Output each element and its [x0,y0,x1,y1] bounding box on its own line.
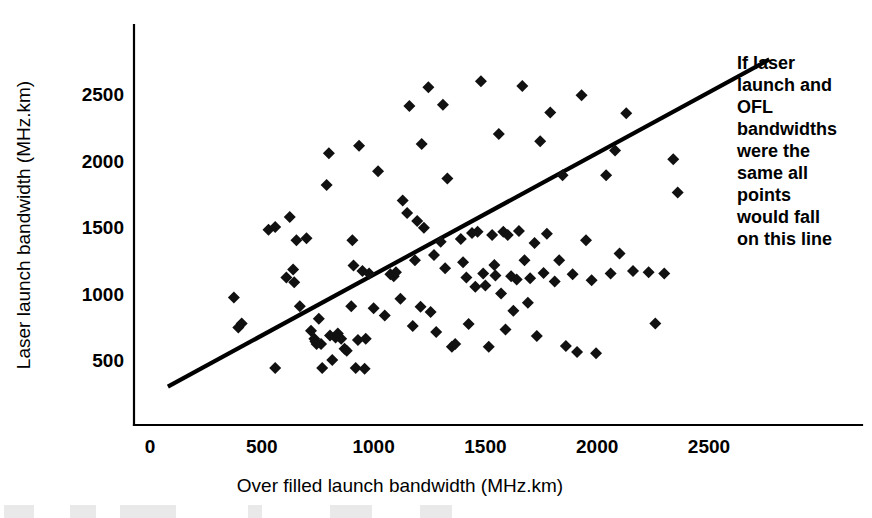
data-point [360,333,372,345]
data-point [326,354,338,366]
data-point [479,280,491,292]
data-point [538,267,550,279]
data-point [475,75,487,87]
identity-reference-line [168,59,769,386]
data-point [614,248,626,260]
x-tick-label: 1000 [352,436,394,457]
data-point [353,140,365,152]
data-point [627,265,639,277]
data-point [590,347,602,359]
x-tick-label: 1500 [464,436,506,457]
data-point [425,306,437,318]
data-point [379,309,391,321]
data-point [649,317,661,329]
y-tick-label: 2000 [82,151,124,172]
data-point [483,341,495,353]
data-point [489,270,501,282]
x-tick-label: 500 [246,436,278,457]
y-tick-label: 1000 [82,284,124,305]
data-point [368,302,380,314]
data-point [290,234,302,246]
data-point [531,330,543,342]
data-point [455,233,467,245]
scatter-plot-figure: 050010001500200025005001000150020002500O… [0,0,872,518]
data-point [567,268,579,280]
data-point [519,254,531,266]
data-point [345,300,357,312]
data-point [269,362,281,374]
data-point [571,346,583,358]
data-point [620,107,632,119]
data-point [541,228,553,240]
data-point [544,107,556,119]
data-point [672,186,684,198]
data-point [287,264,299,276]
data-point [600,169,612,181]
data-point [495,288,507,300]
data-point [522,297,534,309]
data-point [560,340,572,352]
data-point [667,153,679,165]
x-tick-label: 0 [145,436,156,457]
data-point [605,268,617,280]
data-point [580,234,592,246]
data-point [437,99,449,111]
data-point [228,291,240,303]
x-axis-title: Over filled launch bandwidth (MHz.km) [237,475,563,496]
data-point [359,363,371,375]
data-point [457,256,469,268]
data-point [430,326,442,338]
data-point [397,194,409,206]
data-point [553,254,565,266]
data-point [321,179,333,191]
data-point [477,268,489,280]
x-tick-label: 2000 [576,436,618,457]
data-point [416,138,428,150]
data-point [469,281,481,293]
data-point [316,362,328,374]
data-point [313,313,325,325]
data-point [301,232,313,244]
data-point [441,172,453,184]
data-point [407,320,419,332]
data-point [415,301,427,313]
data-point [372,165,384,177]
data-point [428,249,440,261]
data-point [513,225,525,237]
data-point [439,262,451,274]
reference-line-annotation: If laser launch and OFL bandwidths were … [737,52,857,250]
data-point [658,268,670,280]
y-axis-title: Laser launch bandwidth (MHz.km) [13,81,34,369]
data-point [284,211,296,223]
chart-group: 050010001500200025005001000150020002500O… [13,25,862,496]
data-point [463,318,475,330]
data-point [516,80,528,92]
data-point [422,81,434,93]
data-point [534,135,546,147]
data-point [346,234,358,246]
data-point [401,207,413,219]
data-point [576,89,588,101]
data-point [488,259,500,271]
data-point [460,272,472,284]
data-point [507,305,519,317]
data-point [524,272,536,284]
data-point [394,293,406,305]
data-point [493,128,505,140]
page-bottom-artifact [0,505,872,518]
data-point [643,266,655,278]
y-tick-label: 2500 [82,84,124,105]
data-point [529,237,541,249]
data-point [486,229,498,241]
data-point [586,274,598,286]
y-tick-label: 500 [92,350,124,371]
y-tick-label: 1500 [82,217,124,238]
x-tick-label: 2500 [688,436,730,457]
data-point [500,323,512,335]
data-point [549,276,561,288]
data-point [323,147,335,159]
data-point [403,100,415,112]
